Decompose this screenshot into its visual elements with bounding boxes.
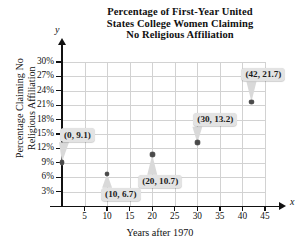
- callout-leader: [246, 82, 256, 102]
- data-point-callout: (42, 21.7): [241, 68, 285, 82]
- data-point-callout: (10, 6.7): [101, 188, 140, 202]
- data-point: [195, 140, 200, 145]
- data-point: [60, 160, 65, 165]
- callout-leader: [147, 155, 157, 175]
- data-point-callout: (30, 13.2): [193, 113, 237, 127]
- callout-leader-lines: [0, 0, 306, 251]
- data-point-callout: (20, 10.7): [138, 175, 182, 189]
- data-point: [150, 152, 155, 157]
- data-point: [249, 100, 254, 105]
- data-point-callout: (0, 9.1): [60, 128, 95, 142]
- chart-figure: Percentage of First-Year United States C…: [0, 0, 306, 251]
